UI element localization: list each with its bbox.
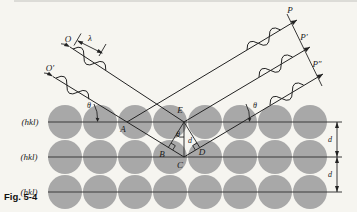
lambda-arrow-left (77, 41, 83, 46)
O-prime-arrow-tail (44, 73, 48, 74)
ray-label-P-double-prime: P″ (311, 59, 321, 69)
dim-arrow-down-1 (335, 151, 339, 157)
lambda-label: λ (87, 33, 92, 43)
diffracted-rays: P P′ P″ (127, 5, 323, 157)
figure-canvas: (hkl) (hkl) (hkl) d d O O′ λ (0, 0, 357, 212)
point-label-B: B (159, 149, 165, 159)
bragg-diffraction-figure: (hkl) (hkl) (hkl) d d O O′ λ (0, 0, 357, 212)
lambda-tick-2 (99, 44, 106, 56)
theta-right-label: θ (253, 101, 257, 110)
point-label-E: E (176, 105, 183, 115)
dim-arrow-down-2 (335, 186, 339, 192)
theta-label-at-E: θ (176, 130, 180, 139)
dim-arrow-up-1 (335, 122, 339, 128)
diffracted-wave-P-prime (259, 55, 293, 77)
ray-label-P: P (286, 5, 293, 15)
wavefront-line (287, 14, 322, 86)
lambda-tick-1 (74, 34, 81, 46)
d-spacing-label-1: d (328, 135, 333, 144)
d-label-EC: d (188, 136, 193, 145)
figure-caption: Fig. 5-4 (4, 191, 38, 202)
point-label-C: C (177, 160, 184, 170)
ray-label-O: O (65, 34, 72, 44)
d-spacing-label-2: d (328, 170, 333, 179)
theta-left-label: θ (87, 101, 91, 110)
point-label-A: A (119, 124, 126, 134)
plane-label-1: (hkl) (22, 117, 39, 127)
ray-label-O-prime: O′ (46, 63, 55, 73)
diffracted-wave-P-double-prime (270, 83, 304, 105)
point-label-D: D (198, 147, 206, 157)
ray-label-P-prime: P′ (299, 32, 308, 42)
plane-label-2: (hkl) (21, 152, 38, 162)
dim-arrow-up-2 (335, 157, 339, 163)
